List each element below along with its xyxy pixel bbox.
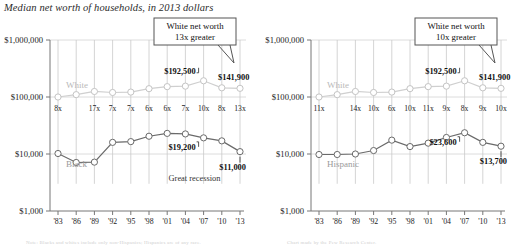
data-point-black: [182, 131, 188, 137]
data-point-white: [219, 85, 225, 91]
x-tick-labels-left: '83'86'89'92'95'98'01'04'07'10'13: [53, 217, 244, 226]
data-point-black: [164, 130, 170, 136]
x-tick-label: '92: [108, 217, 117, 226]
data-point-white: [480, 85, 486, 91]
chart-panel-black-white: $1,000,000$100,000$10,000$1,000 '83'86'8…: [0, 14, 261, 245]
data-point-white: [462, 78, 468, 84]
chart-svg-left: $1,000,000$100,000$10,000$1,000 '83'86'8…: [0, 14, 261, 245]
data-point-black: [110, 139, 116, 145]
axes-right: [307, 40, 505, 215]
data-point-white: [164, 84, 170, 90]
callout-tail: [218, 45, 234, 63]
y-tick-labels-right: $1,000,000$100,000$10,000$1,000: [265, 35, 304, 216]
axes-left: [46, 40, 244, 215]
data-point-hispanic: [316, 151, 322, 157]
ratio-label: 11x: [313, 104, 324, 113]
data-point-white: [128, 89, 134, 95]
ratio-label: 9x: [479, 104, 487, 113]
x-tick-label: '01: [424, 217, 433, 226]
x-tick-label: '04: [442, 217, 451, 226]
ratio-label: 10x: [368, 104, 380, 113]
x-tick-label: '10: [478, 217, 487, 226]
ratio-label: 13x: [234, 104, 246, 113]
callout-line-2: 10x greater: [436, 32, 476, 42]
data-point-white: [443, 83, 449, 89]
x-tick-label: '95: [387, 217, 396, 226]
series-label-black: Black: [66, 159, 87, 169]
x-tick-label: '83: [53, 217, 62, 226]
data-point-hispanic: [480, 139, 486, 145]
x-tick-label: '07: [460, 217, 469, 226]
x-tick-label: '10: [217, 217, 226, 226]
data-point-white: [110, 89, 116, 95]
callout-line-1: White net worth: [166, 21, 224, 31]
value-label-white-2013: $141,900: [218, 73, 249, 82]
data-point-white: [146, 86, 152, 92]
caption-right: Chart made by the Pew Research Center.: [287, 240, 376, 245]
x-tick-label: '01: [163, 217, 172, 226]
value-label-white-2007: $192,500: [164, 67, 195, 76]
value-label-black-2013: $11,000: [219, 163, 246, 172]
ratio-label: 6x: [145, 104, 153, 113]
great-recession-note: Great recession: [169, 174, 222, 183]
x-tick-label: '98: [405, 217, 414, 226]
ratio-label: 6x: [163, 104, 171, 113]
value-label-white-2013: $141,900: [479, 73, 510, 82]
x-tick-label: '89: [351, 217, 360, 226]
data-point-black: [201, 135, 207, 141]
y-tick-label: $1,000: [280, 206, 304, 216]
y-tick-label: $100,000: [272, 92, 304, 102]
ratio-label: 8x: [54, 104, 62, 113]
ratio-label: 17x: [89, 104, 101, 113]
ratio-label: 7x: [182, 104, 190, 113]
y-tick-label: $10,000: [276, 149, 304, 159]
callout-left: White net worth13x greater: [154, 18, 236, 63]
ratio-label: 11x: [423, 104, 434, 113]
data-point-black: [55, 150, 61, 156]
ratio-label: 10x: [495, 104, 507, 113]
series-label-white: White: [327, 80, 349, 90]
data-point-white: [407, 86, 413, 92]
chart-panel-hispanic-white: $1,000,000$100,000$10,000$1,000 '83'86'8…: [261, 14, 522, 245]
ratio-labels-left: 8x17x7x7x6x6x7x10x8x13x: [54, 104, 246, 113]
y-tick-label: $100,000: [11, 92, 43, 102]
y-tick-label: $1,000: [19, 206, 43, 216]
figure-root: Median net worth of households, in 2013 …: [0, 0, 522, 245]
ratio-label: 9x: [443, 104, 451, 113]
y-tick-label: $1,000,000: [265, 35, 304, 45]
data-point-white: [73, 92, 79, 98]
data-point-black: [219, 138, 225, 144]
data-point-hispanic: [389, 137, 395, 143]
data-point-hispanic: [371, 147, 377, 153]
data-point-white: [334, 92, 340, 98]
y-tick-label: $10,000: [15, 149, 43, 159]
ratio-label: 10x: [198, 104, 210, 113]
callout-right: White net worth10x greater: [415, 18, 497, 63]
data-point-white: [237, 85, 243, 91]
data-point-black: [128, 139, 134, 145]
caption-left: Note: Blacks and whites include only non…: [26, 240, 201, 245]
chart-svg-right: $1,000,000$100,000$10,000$1,000 '83'86'8…: [261, 14, 522, 245]
x-tick-label: '98: [144, 217, 153, 226]
value-label-hispanic-2013: $13,700: [480, 157, 507, 166]
leader-line: [197, 142, 199, 147]
data-point-white: [91, 88, 97, 94]
data-point-white: [201, 78, 207, 84]
data-point-hispanic: [462, 130, 468, 136]
data-point-white: [498, 85, 504, 91]
callout-line-1: White net worth: [427, 21, 485, 31]
value-label-white-2007: $192,500: [425, 67, 456, 76]
data-point-white: [352, 88, 358, 94]
figure-title: Median net worth of households, in 2013 …: [4, 2, 213, 13]
x-tick-label: '07: [199, 217, 208, 226]
x-tick-label: '89: [90, 217, 99, 226]
ratio-label: 7x: [109, 104, 117, 113]
data-point-white: [371, 89, 377, 95]
leader-line: [458, 137, 460, 142]
ratio-label: 14x: [350, 104, 362, 113]
value-label-hispanic-2007: $23,600: [429, 138, 456, 147]
ratio-label: 7x: [127, 104, 135, 113]
ratio-label: 8x: [218, 104, 226, 113]
gridlines-right: [311, 40, 507, 154]
x-tick-label: '83: [314, 217, 323, 226]
